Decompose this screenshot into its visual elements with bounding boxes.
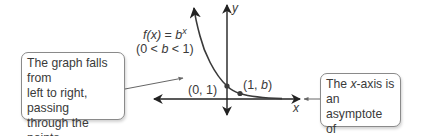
point-label-1-b: (1, b)	[243, 78, 272, 92]
function-label: f(x) = bx	[143, 26, 187, 42]
condition-open: (0 <	[136, 42, 161, 56]
point-label-0-1: (0, 1)	[188, 83, 217, 97]
callout-graph-falls: The graph falls from left to right, pass…	[21, 52, 125, 120]
callout-line: left to right, passing	[27, 86, 119, 116]
leader-line-left	[125, 78, 183, 89]
condition-close: < 1)	[168, 42, 193, 56]
point-label-var: b	[261, 78, 268, 92]
point-1-b	[237, 91, 242, 96]
y-axis-label: y	[232, 1, 238, 15]
x-axis-label: x	[293, 101, 299, 115]
point-label-post: )	[268, 78, 272, 92]
point-0-1	[224, 83, 229, 88]
function-exponent: x	[182, 26, 187, 36]
callout-line: The graph falls from	[27, 56, 119, 86]
equals-sign: =	[161, 28, 175, 42]
condition-label: (0 < b < 1)	[136, 42, 194, 56]
function-lhs: f(x)	[143, 28, 161, 42]
callout-asymptote: The x-axis is an asymptote of the graph.	[320, 73, 401, 127]
callout-line: The x-axis is an	[326, 77, 395, 107]
callout-line: asymptote of	[326, 107, 395, 136]
callout-line: through the points	[27, 116, 119, 136]
point-label-pre: (1,	[243, 78, 261, 92]
callout-text: The	[326, 77, 350, 91]
point-label-text: (0, 1)	[188, 83, 217, 97]
